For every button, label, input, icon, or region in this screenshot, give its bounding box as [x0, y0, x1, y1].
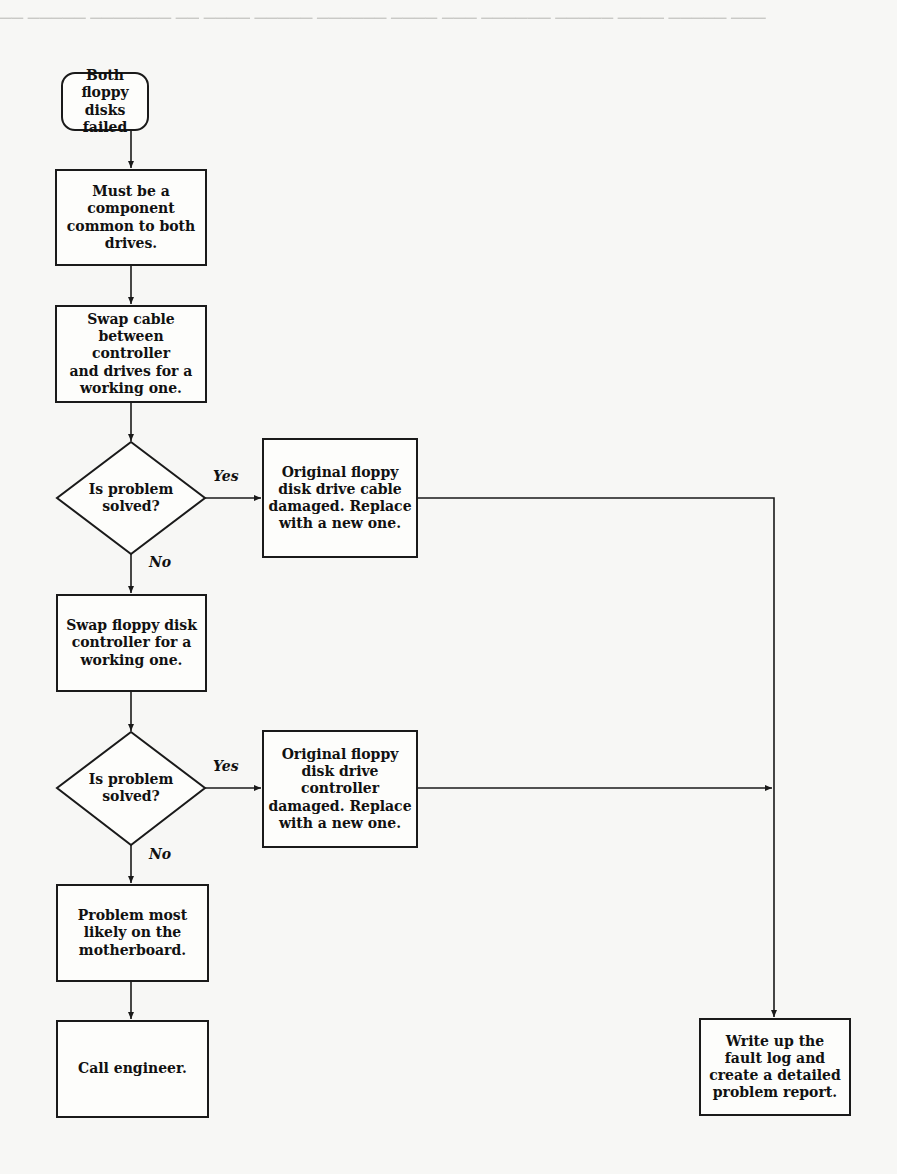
edge-label-no-1: No [149, 554, 171, 570]
node-call-engineer: Call engineer. [56, 1020, 209, 1118]
node-start: Both floppydisks failed [61, 72, 149, 131]
decision-1-label: Is problemsolved? [71, 478, 191, 518]
node-controller-damaged: Original floppydisk drivecontrollerdamag… [262, 730, 418, 848]
node-common-component: Must be acomponentcommon to bothdrives. [55, 169, 207, 266]
node-problem-report: Write up thefault log andcreate a detail… [699, 1018, 851, 1116]
edge-label-yes-1: Yes [213, 468, 239, 484]
node-swap-cable: Swap cablebetween controllerand drives f… [55, 305, 207, 403]
node-cable-damaged: Original floppydisk drive cabledamaged. … [262, 438, 418, 558]
node-swap-controller: Swap floppy diskcontroller for aworking … [56, 594, 207, 692]
decision-2-label: Is problemsolved? [71, 768, 191, 808]
edge-label-yes-2: Yes [213, 758, 239, 774]
node-motherboard: Problem mostlikely on themotherboard. [56, 884, 209, 982]
edge-label-no-2: No [149, 846, 171, 862]
